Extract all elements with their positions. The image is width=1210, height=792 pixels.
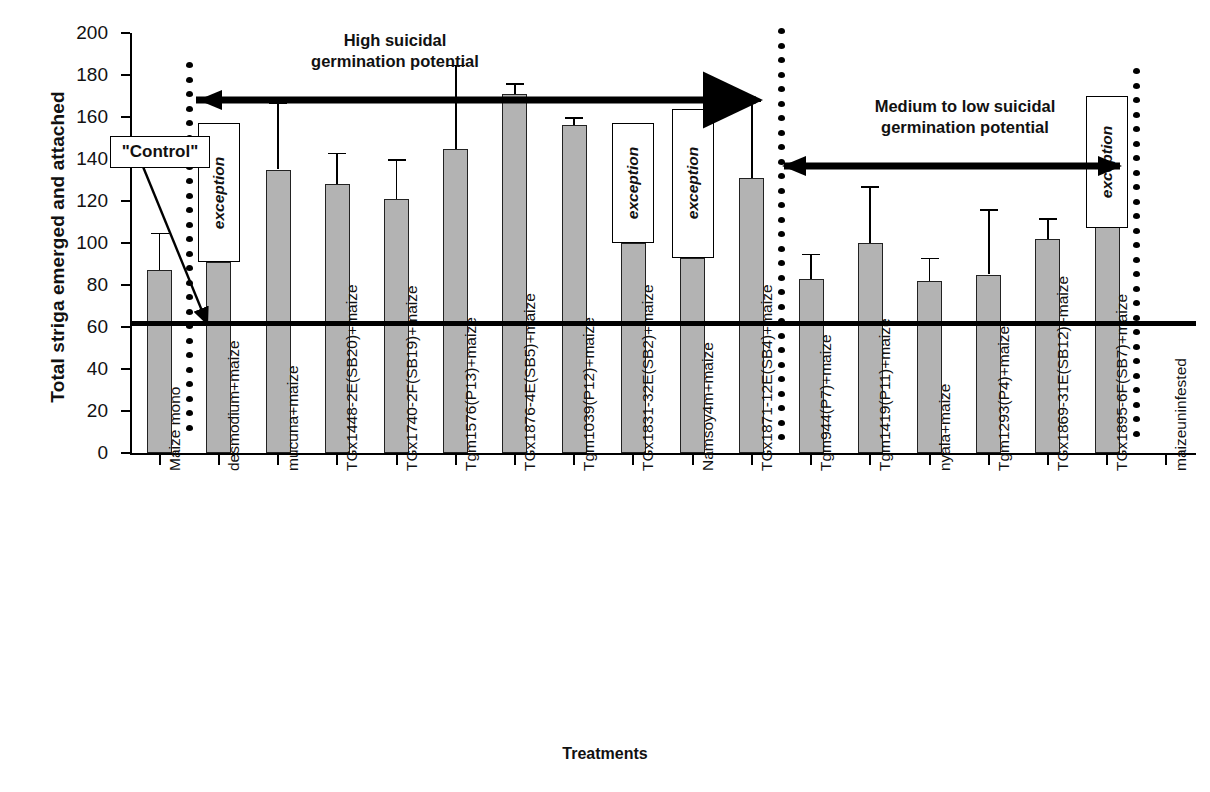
error-bar bbox=[929, 258, 931, 281]
region-medium-low-arrow bbox=[782, 156, 1122, 176]
x-tick-label: TGx1448-2E(SB20)+maize bbox=[343, 284, 361, 471]
error-bar-cap bbox=[269, 102, 287, 104]
error-bar-cap bbox=[151, 233, 169, 235]
x-tick-label: Tgm944(P7)+maize bbox=[817, 334, 835, 471]
x-tick-label: Tgm1576(P13)+maize bbox=[462, 317, 480, 471]
error-bar-cap bbox=[980, 209, 998, 211]
x-tick-label: Maize mono bbox=[166, 387, 184, 471]
x-tick-mark bbox=[1165, 455, 1167, 465]
y-tick-mark bbox=[121, 116, 130, 118]
x-tick-mark bbox=[1047, 455, 1049, 465]
y-tick-mark bbox=[121, 284, 130, 286]
x-tick-label: Tgm1419(P11)+maize bbox=[876, 318, 894, 471]
region-medium-low-note: Medium to low suicidal germination poten… bbox=[800, 96, 1130, 138]
x-tick-mark bbox=[632, 455, 634, 465]
x-tick-label: mucuna+maize bbox=[284, 365, 302, 471]
error-bar bbox=[988, 209, 990, 274]
chart-figure: Total striga emerged and attached Treatm… bbox=[0, 0, 1210, 792]
y-tick-label: 0 bbox=[62, 442, 108, 464]
error-bar-cap bbox=[506, 83, 524, 85]
x-tick-mark bbox=[218, 455, 220, 465]
y-tick-mark bbox=[121, 368, 130, 370]
x-tick-mark bbox=[336, 455, 338, 465]
y-tick-mark bbox=[121, 326, 130, 328]
x-tick-mark bbox=[159, 455, 161, 465]
x-tick-label: TGx1831-32E(SB2)+maize bbox=[639, 284, 657, 471]
error-bar bbox=[159, 233, 161, 271]
error-bar-cap bbox=[802, 254, 820, 256]
y-tick-label: 160 bbox=[62, 106, 108, 128]
region-high-note: High suicidal germination potential bbox=[230, 30, 560, 72]
y-axis-line bbox=[130, 33, 132, 455]
x-tick-label: Tgm1293(P4)+maize bbox=[995, 326, 1013, 471]
y-tick-label: 140 bbox=[62, 148, 108, 170]
y-tick-label: 80 bbox=[62, 274, 108, 296]
y-tick-mark bbox=[121, 452, 130, 454]
error-bar bbox=[455, 65, 457, 149]
x-tick-label: TGx1876-4E(SB5)+maize bbox=[521, 293, 539, 471]
error-bar-cap bbox=[328, 153, 346, 155]
region-high-arrow bbox=[196, 90, 756, 110]
exception-label: exception bbox=[624, 147, 642, 219]
dotted-separator-middle bbox=[778, 28, 785, 450]
error-bar bbox=[751, 100, 753, 178]
x-tick-mark bbox=[869, 455, 871, 465]
y-tick-mark bbox=[121, 410, 130, 412]
x-tick-label: nyala+maize bbox=[936, 384, 954, 471]
x-tick-mark bbox=[692, 455, 694, 465]
error-bar bbox=[396, 159, 398, 199]
error-bar-cap bbox=[388, 159, 406, 161]
error-bar bbox=[277, 102, 279, 169]
error-bar-cap bbox=[861, 186, 879, 188]
x-tick-mark bbox=[396, 455, 398, 465]
error-bar-cap bbox=[921, 258, 939, 260]
x-tick-label: TGx1740-2F(SB19)+maize bbox=[403, 285, 421, 471]
y-tick-label: 100 bbox=[62, 232, 108, 254]
x-tick-label: maizeuninfested bbox=[1172, 358, 1190, 471]
error-bar bbox=[810, 254, 812, 279]
x-axis-title: Treatments bbox=[0, 745, 1210, 763]
x-tick-label: Tgm1039(P12)+maize bbox=[580, 317, 598, 471]
y-tick-mark bbox=[121, 200, 130, 202]
x-tick-mark bbox=[810, 455, 812, 465]
x-tick-mark bbox=[514, 455, 516, 465]
threshold-line bbox=[130, 321, 1196, 326]
error-bar-cap bbox=[743, 100, 761, 102]
x-tick-label: Namsoy4m+maize bbox=[699, 342, 717, 471]
control-callout-box: "Control" bbox=[110, 136, 210, 168]
y-tick-label: 120 bbox=[62, 190, 108, 212]
x-tick-mark bbox=[1106, 455, 1108, 465]
x-tick-label: TGx1869-31E(SB12)+maize bbox=[1054, 276, 1072, 471]
x-tick-label: TGx1871-12E(SB4)+maize bbox=[758, 284, 776, 471]
x-tick-label: desmodium+maize bbox=[225, 340, 243, 471]
y-tick-label: 20 bbox=[62, 400, 108, 422]
error-bar-cap bbox=[565, 117, 583, 119]
y-tick-label: 200 bbox=[62, 22, 108, 44]
error-bar-cap bbox=[1039, 218, 1057, 220]
y-tick-mark bbox=[121, 32, 130, 34]
exception-box-namsoy: exception bbox=[672, 109, 714, 258]
dotted-separator-right bbox=[1133, 68, 1140, 450]
control-callout-label: "Control" bbox=[122, 142, 199, 162]
error-bar bbox=[869, 186, 871, 243]
y-tick-label: 180 bbox=[62, 64, 108, 86]
y-tick-label: 40 bbox=[62, 358, 108, 380]
error-bar bbox=[1047, 218, 1049, 239]
x-tick-mark bbox=[929, 455, 931, 465]
y-tick-label: 60 bbox=[62, 316, 108, 338]
x-tick-mark bbox=[277, 455, 279, 465]
dotted-separator-left bbox=[186, 62, 193, 450]
exception-label: exception bbox=[210, 156, 228, 228]
y-tick-mark bbox=[121, 242, 130, 244]
x-tick-mark bbox=[455, 455, 457, 465]
y-tick-mark bbox=[121, 74, 130, 76]
error-bar bbox=[336, 153, 338, 185]
exception-box-tgx1831: exception bbox=[612, 123, 654, 243]
x-tick-mark bbox=[988, 455, 990, 465]
x-tick-mark bbox=[573, 455, 575, 465]
exception-label: exception bbox=[684, 147, 702, 219]
x-tick-mark bbox=[751, 455, 753, 465]
